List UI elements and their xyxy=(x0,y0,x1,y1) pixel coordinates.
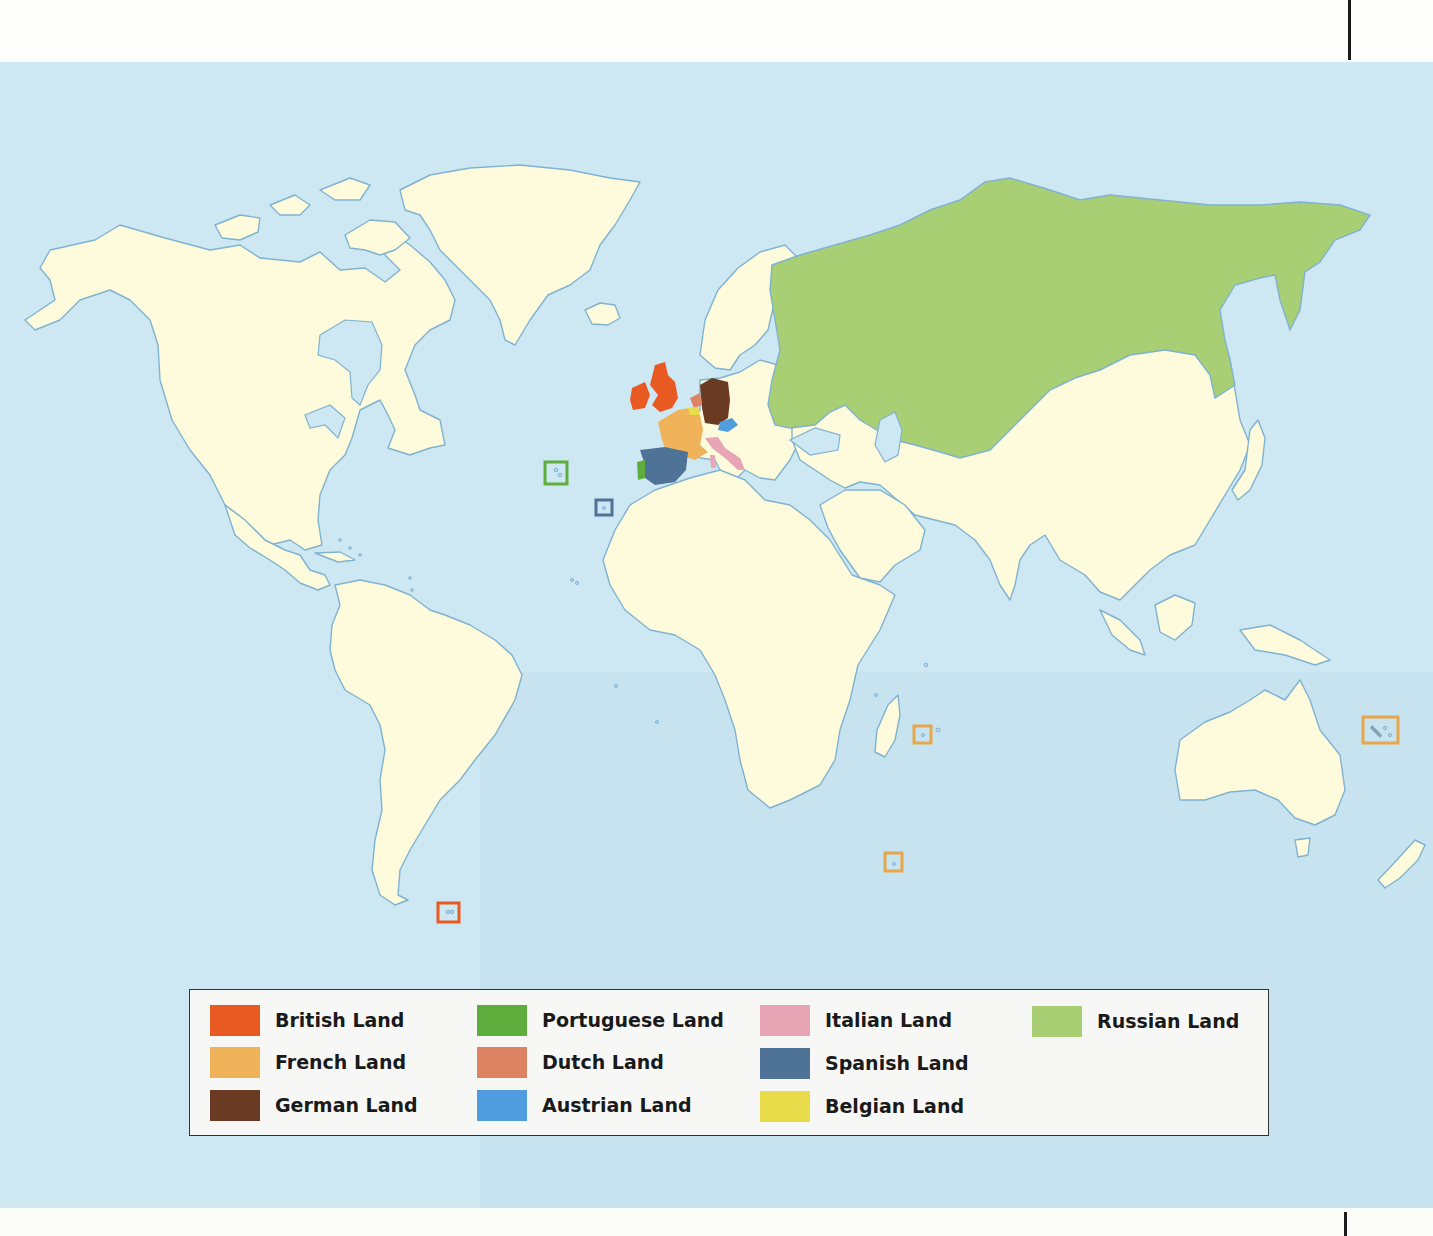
legend-item-belgian: Belgian Land xyxy=(760,1090,964,1122)
legend-label-dutch: Dutch Land xyxy=(542,1051,664,1073)
legend-item-italian: Italian Land xyxy=(760,1004,952,1036)
crop-mark-top xyxy=(1348,0,1351,60)
world-map: British Land French Land German Land Por… xyxy=(0,62,1433,1208)
territory-sardinia xyxy=(710,455,716,468)
landmass-north-america xyxy=(25,225,455,550)
legend-swatch-belgian xyxy=(760,1091,810,1122)
landmass-iceland xyxy=(585,303,620,325)
landmass-tasmania xyxy=(1295,838,1310,857)
territory-britain xyxy=(650,362,678,412)
page-margin-bottom xyxy=(0,1208,1433,1236)
legend-item-russian: Russian Land xyxy=(1032,1005,1239,1037)
marker-new-caledonia xyxy=(1363,717,1398,743)
legend-item-austrian: Austrian Land xyxy=(477,1089,692,1121)
territory-belgium xyxy=(688,407,700,415)
landmass-arctic-islands xyxy=(215,178,370,240)
crop-mark-bottom xyxy=(1344,1212,1347,1236)
legend-label-portuguese: Portuguese Land xyxy=(542,1009,724,1031)
legend-label-russian: Russian Land xyxy=(1097,1010,1239,1032)
legend-label-french: French Land xyxy=(275,1051,406,1073)
legend-swatch-portuguese xyxy=(477,1005,527,1036)
legend-label-italian: Italian Land xyxy=(825,1009,952,1031)
territory-germany xyxy=(700,378,730,425)
legend-item-spanish: Spanish Land xyxy=(760,1047,969,1079)
landmass-south-america xyxy=(330,580,522,905)
territory-portugal xyxy=(637,460,645,480)
legend-item-french: French Land xyxy=(210,1046,406,1078)
territory-spain xyxy=(640,447,688,485)
legend-swatch-spanish xyxy=(760,1048,810,1079)
legend-swatch-austrian xyxy=(477,1090,527,1121)
legend-swatch-dutch xyxy=(477,1047,527,1078)
legend-label-belgian: Belgian Land xyxy=(825,1095,964,1117)
landmass-cuba xyxy=(315,552,355,562)
legend-item-portuguese: Portuguese Land xyxy=(477,1004,724,1036)
map-legend: British Land French Land German Land Por… xyxy=(189,989,1269,1136)
marker-kerguelen xyxy=(885,853,902,871)
legend-swatch-french xyxy=(210,1047,260,1078)
legend-item-german: German Land xyxy=(210,1089,418,1121)
legend-item-british: British Land xyxy=(210,1004,404,1036)
legend-swatch-russian xyxy=(1032,1006,1082,1037)
landmass-australia xyxy=(1175,680,1345,825)
marker-azores xyxy=(545,462,567,484)
legend-swatch-british xyxy=(210,1005,260,1036)
legend-swatch-german xyxy=(210,1090,260,1121)
landmass-sumatra-borneo xyxy=(1100,595,1330,665)
territory-ireland xyxy=(630,382,650,410)
page-margin-top xyxy=(0,0,1433,62)
landmass-madagascar xyxy=(875,695,900,757)
legend-label-british: British Land xyxy=(275,1009,404,1031)
legend-label-spanish: Spanish Land xyxy=(825,1052,969,1074)
legend-label-german: German Land xyxy=(275,1094,418,1116)
legend-item-dutch: Dutch Land xyxy=(477,1046,664,1078)
legend-label-austrian: Austrian Land xyxy=(542,1094,692,1116)
legend-swatch-italian xyxy=(760,1005,810,1036)
landmass-new-zealand xyxy=(1378,840,1425,888)
